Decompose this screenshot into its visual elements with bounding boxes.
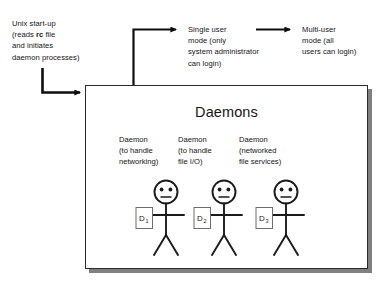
startup-line-2-prefix: (reads [12, 30, 36, 39]
daemons-panel: Daemons Daemon (to handle networking) Da… [85, 85, 368, 269]
stick-figure-daemon-3: D 3 [248, 179, 324, 259]
daemon-badge-letter-3: D [259, 214, 265, 223]
daemons-panel-title: Daemons [86, 104, 367, 120]
startup-line-4: daemon processes) [12, 53, 80, 62]
label-unix-startup: Unix start-up(reads rc fileand initiates… [12, 18, 120, 63]
daemon-label-file-services: Daemon (networked file services) [239, 134, 313, 168]
startup-line-1: Unix start-up [12, 19, 56, 28]
daemon-badge-letter-2: D [197, 214, 203, 223]
daemon-badge-letter-1: D [139, 214, 145, 223]
label-single-user-mode: Single user mode (only system administra… [188, 24, 276, 69]
diagram-canvas: Unix start-up(reads rc fileand initiates… [0, 0, 389, 292]
startup-line-2-suffix: file [43, 30, 55, 39]
daemon-badge-subscript-1: 1 [146, 218, 149, 224]
daemon-badge-subscript-2: 2 [204, 218, 207, 224]
label-multi-user-mode: Multi-user mode (all users can login) [302, 24, 382, 58]
arrow-startup-to-single-user [134, 30, 177, 89]
arrow-startup-to-daemons [43, 68, 81, 93]
daemon-badge-subscript-3: 3 [266, 218, 269, 224]
startup-line-3: and initiates [12, 41, 53, 50]
